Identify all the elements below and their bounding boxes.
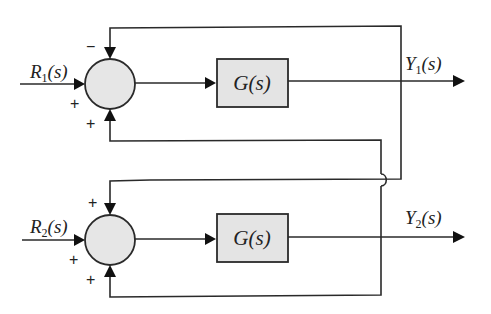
input-r2-label: R2(s) [29, 216, 68, 240]
arrow-sum2-to-g2 [205, 233, 216, 245]
block-diagram: G(s) R1(s) Y1(s) − + + G(s) R2(s) Y2(s) … [0, 0, 491, 314]
input-r1-label: R1(s) [29, 61, 68, 85]
block-g1-label: G(s) [233, 71, 270, 95]
output-y2-label: Y2(s) [405, 207, 442, 231]
arrow-y1-output [453, 75, 465, 87]
crossover-hop [381, 174, 386, 186]
arrow-into-sum1-bottom [104, 109, 116, 121]
sum2-top-sign: + [88, 194, 97, 211]
summing-junction-1 [85, 59, 135, 109]
arrow-r1-to-sum1 [74, 78, 85, 90]
sum1-left-sign: + [70, 95, 79, 112]
arrow-into-sum2-bottom [104, 265, 116, 277]
arrow-into-sum2-top [104, 203, 116, 215]
output-y1-label: Y1(s) [405, 53, 442, 77]
arrow-sum1-to-g1 [205, 77, 216, 89]
feedback-y2-to-sum1-bottom-upper [110, 118, 381, 174]
arrow-into-sum1-top [104, 47, 116, 59]
arrow-r2-to-sum2 [74, 234, 85, 246]
sum2-left-sign: + [69, 251, 78, 268]
sum1-bottom-sign: + [86, 115, 95, 132]
arrow-y2-output [453, 231, 465, 243]
summing-junction-2 [85, 215, 135, 265]
sum1-top-sign: − [86, 38, 95, 55]
block-g2-label: G(s) [233, 226, 270, 250]
sum2-bottom-sign: + [86, 271, 95, 288]
